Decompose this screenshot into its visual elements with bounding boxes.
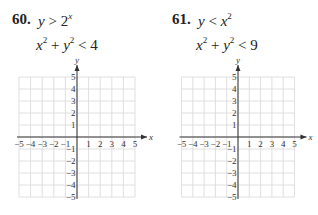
y-tick-label: 5 [232, 72, 237, 82]
y-tick-label: −4 [227, 180, 237, 190]
y-tick-label: 2 [232, 108, 237, 118]
y-tick-label: −3 [227, 168, 237, 178]
coordinate-grid-61[interactable]: xy−5−4−3−2−11234554321−1−2−3−4−5 [0, 0, 318, 215]
y-axis-arrow-icon [236, 65, 241, 71]
x-tick-label: −2 [211, 139, 221, 149]
x-tick-label: −3 [199, 139, 209, 149]
y-tick-label: −1 [227, 144, 237, 154]
y-tick-label: 1 [232, 120, 237, 130]
x-tick-label: −4 [188, 139, 198, 149]
x-axis-label: x [308, 132, 313, 142]
x-tick-label: 5 [292, 139, 297, 149]
x-tick-label: 1 [247, 139, 252, 149]
x-tick-label: −5 [177, 139, 187, 149]
y-tick-label: −2 [227, 156, 237, 166]
x-tick-label: 3 [270, 139, 275, 149]
x-tick-label: 4 [281, 139, 286, 149]
x-axis-arrow-icon [301, 135, 307, 140]
y-tick-label: 4 [232, 84, 237, 94]
y-tick-label: −5 [227, 192, 237, 202]
x-tick-label: 2 [258, 139, 263, 149]
y-tick-label: 3 [232, 96, 237, 106]
y-axis-label: y [235, 55, 240, 65]
